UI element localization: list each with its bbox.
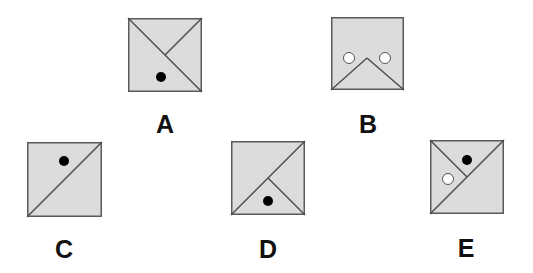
square-diagram: [331, 17, 404, 90]
white-dot-icon: [344, 53, 355, 64]
figure-b: [331, 17, 404, 90]
square-diagram: [27, 142, 102, 217]
black-dot-icon: [59, 156, 69, 166]
figure-label-c: C: [44, 237, 84, 262]
white-dot-icon: [380, 53, 391, 64]
black-dot-icon: [156, 72, 166, 82]
black-dot-icon: [263, 196, 273, 206]
square-outline: [332, 18, 404, 90]
black-dot-icon: [462, 155, 472, 165]
figure-a: [128, 18, 202, 92]
white-dot-icon: [443, 174, 454, 185]
figure-c: [27, 142, 102, 217]
figure-e: [430, 140, 504, 214]
figure-label-d: D: [248, 237, 288, 262]
figure-d: [231, 141, 305, 215]
figure-label-e: E: [446, 236, 486, 261]
square-diagram: [430, 140, 504, 214]
figure-label-a: A: [145, 112, 185, 137]
figure-label-b: B: [348, 112, 388, 137]
square-diagram: [128, 18, 202, 92]
square-diagram: [231, 141, 305, 215]
